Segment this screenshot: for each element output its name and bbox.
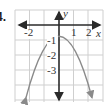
y-tick-neg3: -3: [47, 64, 57, 76]
x-tick-1: 1: [71, 26, 77, 38]
y-tick-neg2: -2: [47, 49, 56, 61]
parabola-graph: -2 1 2 x y -1 -2 -3: [0, 0, 110, 110]
x-tick-neg2: -2: [24, 26, 33, 38]
x-tick-2: 2: [86, 26, 92, 38]
y-axis-label: y: [62, 7, 68, 19]
x-axis-label: x: [95, 27, 101, 39]
y-tick-neg1: -1: [47, 34, 56, 46]
